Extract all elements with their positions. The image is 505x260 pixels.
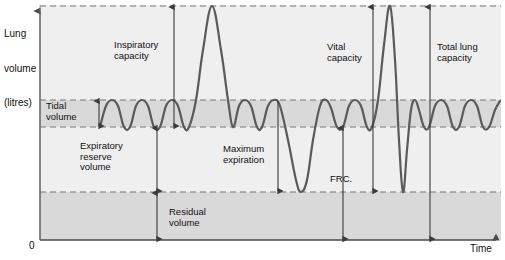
y-axis-label: Lung volume (litres) [4, 5, 36, 132]
label-total-lung-capacity: Total lungcapacity [437, 42, 478, 63]
label-maximum-expiration-line-2: expiration [223, 155, 264, 166]
y-axis-label-line-1: Lung [4, 28, 36, 40]
y-axis-label-line-2: volume [4, 63, 36, 75]
label-expiratory-reserve-volume-line-3: volume [80, 162, 123, 173]
label-residual-volume-line-2: volume [169, 218, 206, 229]
y-axis-label-line-3: (litres) [4, 97, 36, 109]
label-vital-capacity: Vitalcapacity [327, 42, 362, 63]
residual-volume-band [40, 192, 501, 240]
label-expiratory-reserve-volume: Expiratoryreservevolume [80, 141, 123, 173]
x-axis-label: Time [470, 243, 492, 255]
label-maximum-expiration: Maximumexpiration [223, 144, 264, 165]
label-total-lung-capacity-line-2: capacity [437, 53, 478, 64]
spirogram-figure: Lung volume (litres) 0 Time TidalvolumeI… [0, 0, 505, 260]
label-frc-line-1: FRC. [330, 174, 352, 185]
label-tidal-volume-line-2: volume [46, 112, 77, 123]
label-inspiratory-capacity: Inspiratorycapacity [114, 40, 158, 61]
label-vital-capacity-line-2: capacity [327, 53, 362, 64]
origin-label: 0 [29, 240, 35, 252]
label-frc: FRC. [330, 174, 352, 185]
label-inspiratory-capacity-line-2: capacity [114, 51, 158, 62]
spirogram-canvas [0, 0, 505, 260]
label-residual-volume: Residualvolume [169, 207, 206, 228]
label-tidal-volume: Tidalvolume [46, 101, 77, 122]
